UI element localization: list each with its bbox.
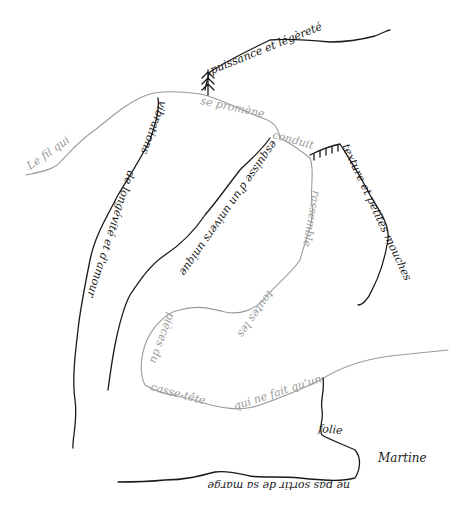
text-rassemble: rassemble — [300, 189, 323, 248]
comb-icon — [314, 145, 338, 160]
text-se-promene: se promène — [199, 94, 266, 120]
text-qui-ne-fait-quun: qui ne fait qu'un — [232, 372, 323, 413]
text-toutes-les: toutes les — [234, 288, 276, 340]
text-puissance-et-legerete: puissance et légèreté — [208, 20, 324, 77]
signature: Martine — [377, 451, 427, 465]
text-casse-tete: casse-tête — [149, 380, 207, 407]
text-esquisse-univers: esquisse d'un univers unique — [176, 138, 280, 279]
text-le-fil-qui: Le fil qui — [23, 134, 72, 174]
text-de-longevite-et-damour: de longévité et d'amour — [84, 169, 138, 300]
calligram-drawing: Le fil qui se promène conduit rassemble … — [0, 0, 474, 507]
calligram-canvas: Le fil qui se promène conduit rassemble … — [0, 0, 474, 507]
text-texture-et-petites-mouches: texture et petites mouches — [339, 142, 414, 283]
text-folie: folie — [317, 422, 344, 437]
grey-thread-top — [26, 92, 448, 409]
text-mirrored-bottom: ne pas sortir de sa marge — [207, 479, 350, 492]
text-pieces-du: pièces du — [147, 311, 177, 365]
text-vibrations: vibrations — [138, 99, 169, 156]
